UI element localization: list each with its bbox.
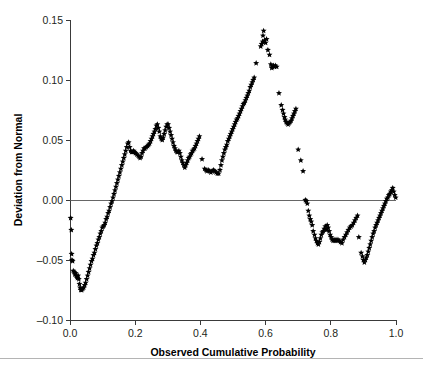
x-axis-title: Observed Cumulative Probability — [150, 346, 315, 358]
data-point-marker — [356, 234, 362, 240]
data-point-marker — [68, 227, 74, 233]
x-tick-label: 0.4 — [193, 327, 208, 339]
y-tick-label: 0.10 — [43, 74, 64, 86]
x-tick-label: 0.2 — [128, 327, 143, 339]
data-point-marker — [276, 90, 282, 96]
x-tick-label: 0.6 — [258, 327, 273, 339]
y-axis-title: Deviation from Normal — [12, 114, 24, 227]
data-point-marker — [280, 107, 286, 113]
data-point-marker — [265, 47, 271, 53]
data-point-marker — [260, 32, 266, 38]
figure-canvas: –0.10–0.050.000.050.100.150.00.20.40.60.… — [0, 0, 423, 372]
y-tick-label: –0.10 — [37, 314, 63, 326]
x-tick-label: 0.8 — [323, 327, 338, 339]
scatter-plot: –0.10–0.050.000.050.100.150.00.20.40.60.… — [0, 0, 423, 372]
data-point-marker — [267, 52, 273, 58]
y-tick-label: 0.05 — [43, 134, 64, 146]
x-tick-label: 1.0 — [389, 327, 404, 339]
data-point-marker — [76, 281, 82, 287]
data-point-marker — [68, 215, 74, 221]
data-point-marker — [298, 157, 304, 163]
y-tick-label: 0.00 — [43, 194, 64, 206]
data-point-marker — [310, 228, 316, 234]
data-point-marker — [199, 156, 205, 162]
data-point-marker — [218, 162, 224, 168]
data-point-marker — [278, 102, 284, 108]
y-tick-label: 0.15 — [43, 14, 64, 26]
data-point-marker — [306, 212, 312, 218]
data-point-marker — [295, 146, 301, 152]
data-point-marker — [300, 168, 306, 174]
data-point-marker — [261, 28, 267, 34]
y-tick-label: –0.05 — [37, 254, 63, 266]
data-point-marker — [305, 208, 311, 214]
data-point-marker — [253, 60, 259, 66]
data-point-marker — [358, 250, 364, 256]
footer-divider — [0, 358, 423, 359]
x-tick-label: 0.0 — [63, 327, 78, 339]
